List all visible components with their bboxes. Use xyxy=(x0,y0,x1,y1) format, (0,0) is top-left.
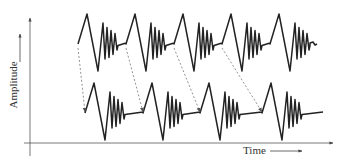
x-axis-label: Time xyxy=(243,145,266,156)
y-axis-label: Amplitude xyxy=(8,61,19,108)
lower-trace xyxy=(85,83,323,140)
waveform-diagram xyxy=(0,0,353,165)
upper-trace xyxy=(78,14,317,71)
delay-arrow xyxy=(78,48,85,112)
delay-arrow xyxy=(126,48,143,112)
